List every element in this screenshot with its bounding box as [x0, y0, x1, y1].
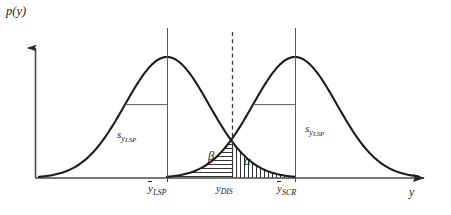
alpha-label: α: [244, 155, 251, 168]
mean-lsp-sub: LSP: [153, 188, 167, 197]
mean-lsp-base: y: [148, 182, 153, 194]
curve-lsp: [39, 57, 295, 177]
mean-scr-base: y: [277, 182, 282, 194]
sigma-subsub-right: LSP: [313, 130, 324, 137]
y-dis-label: yDIS: [216, 184, 233, 196]
overline-scr: [277, 181, 280, 182]
x-axis-title: y: [409, 186, 414, 198]
distribution-overlap-diagram: [0, 0, 451, 215]
sigma-label-scr: syLSP: [305, 123, 324, 137]
mean-scr-symbol: y: [277, 182, 282, 194]
curve-scr: [167, 57, 418, 177]
beta-region: [167, 139, 232, 178]
overline-lsp: [148, 181, 151, 182]
sigma-label-lsp: syLSP: [117, 129, 136, 143]
mean-scr-sub: SCR: [282, 188, 296, 197]
mean-lsp-symbol: y: [148, 182, 153, 194]
alpha-region: [232, 141, 295, 178]
mean-scr-label: ySCR: [277, 183, 296, 197]
mean-lsp-label: yLSP: [148, 183, 166, 197]
beta-label: β: [208, 150, 214, 163]
sigma-subsub-left: LSP: [125, 136, 136, 143]
y-axis-title: p(y): [6, 5, 26, 18]
y-dis-sub: DIS: [221, 187, 233, 196]
